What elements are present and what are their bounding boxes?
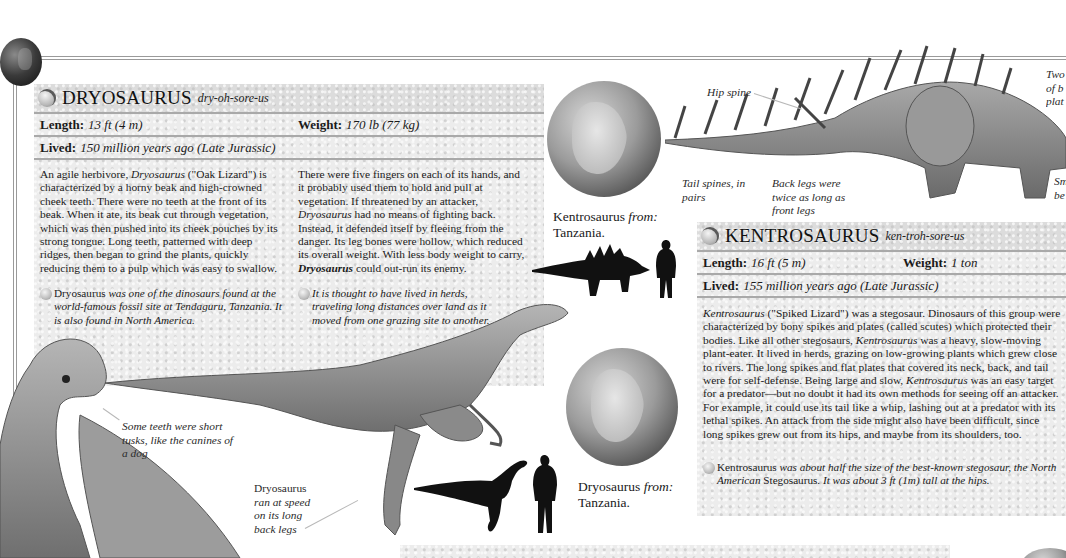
dryosaurus-title: DRYOSAURUS [62,87,192,109]
partial-globe-bottom-right [1020,548,1066,558]
dryosaurus-lived-row: Lived: 150 million years ago (Late Juras… [34,137,544,160]
lived-value: 150 million years ago (Late Jurassic) [80,140,275,156]
caption-running: Dryosaurus ran at speed on its long back… [254,482,324,536]
weight-value: 1 ton [951,255,977,271]
kentrosaurus-pronunciation: ken-troh-sore-us [885,229,964,244]
kentrosaurus-title: KENTROSAURUS [725,225,879,247]
kentrosaurus-title-bar: KENTROSAURUS ken-troh-sore-us [697,222,1066,252]
kentrosaurus-scale-silhouette [530,240,680,302]
dryosaurus-title-bar: DRYOSAURUS dry-oh-sore-us [34,84,544,114]
kentrosaurus-lived-row: Lived: 155 million years ago (Late Juras… [697,275,1066,298]
weight-label: Weight: [298,117,342,133]
kentrosaurus-note: Kentrosaurus was about half the size of … [703,461,1062,487]
next-panel-top-edge [400,545,950,558]
dryosaurus-location-globe [566,348,678,466]
kentrosaurus-origin: Kentrosaurus from: Tanzania. [553,209,658,241]
lived-label: Lived: [703,278,739,294]
dryosaurus-pronunciation: dry-oh-sore-us [198,91,269,106]
length-label: Length: [703,255,747,271]
length-value: 16 ft (5 m) [751,255,806,271]
kentrosaurus-size-row: Length: 16 ft (5 m) Weight: 1 ton [697,252,1066,275]
kentrosaurus-info-panel: KENTROSAURUS ken-troh-sore-us Length: 16… [697,222,1066,516]
globe-icon [0,38,42,86]
lived-value: 155 million years ago (Late Jurassic) [743,278,938,294]
bullet-icon [703,462,715,474]
dryosaurus-paragraph-1: An agile herbivore, Dryosaurus ("Oak Liz… [40,168,282,275]
bullet-icon [701,227,719,245]
caption-tail-spines: Tail spines, in pairs [682,177,752,204]
dryosaurus-size-row: Length: 13 ft (4 m) Weight: 170 lb (77 k… [34,114,544,137]
length-label: Length: [40,117,84,133]
caption-plates-partial: Two of b plat [1046,68,1066,110]
dryosaurus-origin: Dryosaurus from: Tanzania. [578,479,673,511]
dryosaurus-scale-silhouette [412,455,562,535]
lived-label: Lived: [40,140,76,156]
caption-back-legs: Back legs were twice as long as front le… [772,177,852,218]
kentrosaurus-location-globe [547,81,661,197]
kentrosaurus-paragraph: Kentrosaurus ("Spiked Lizard") was a ste… [703,307,1062,441]
dryosaurus-paragraph-2: There were five fingers on each of its h… [298,168,528,275]
caption-teeth: Some teeth were short tusks, like the ca… [122,420,237,461]
weight-label: Weight: [903,255,947,271]
weight-value: 170 lb (77 kg) [346,117,419,133]
length-value: 13 ft (4 m) [88,117,143,133]
caption-hip-spine: Hip spine [707,86,751,100]
caption-small-partial: Sm be [1054,175,1066,205]
bullet-icon [38,89,56,107]
